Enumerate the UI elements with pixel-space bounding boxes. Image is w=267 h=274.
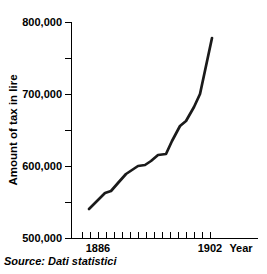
source-caption: Source: Dati statistici	[4, 255, 116, 267]
y-axis: 800,000 700,000 600,000 500,000 Amount o…	[7, 16, 72, 244]
y-tick-label-500000: 500,000	[22, 232, 62, 244]
y-tick-label-600000: 600,000	[22, 160, 62, 172]
y-axis-title: Amount of tax in lire	[7, 74, 19, 185]
y-tick-label-700000: 700,000	[22, 88, 62, 100]
y-tick-label-800000: 800,000	[22, 16, 62, 28]
x-axis: 1886 1902 Year	[72, 232, 259, 254]
chart-figure: 800,000 700,000 600,000 500,000 Amount o…	[0, 0, 267, 274]
x-axis-title: Year	[229, 242, 253, 254]
data-series-line	[89, 38, 212, 209]
line-chart: 800,000 700,000 600,000 500,000 Amount o…	[0, 0, 267, 274]
x-tick-label-1886: 1886	[86, 242, 110, 254]
x-tick-label-1902: 1902	[198, 242, 222, 254]
